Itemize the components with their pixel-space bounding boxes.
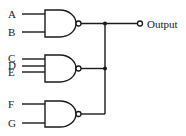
inversion-bubble-icon (76, 112, 81, 117)
input-label-b: B (8, 26, 15, 38)
output-terminal-icon (138, 21, 143, 26)
nand-gate-icon (45, 10, 76, 37)
input-label-a: A (8, 8, 16, 20)
nand-gate-icon (45, 55, 76, 82)
inversion-bubble-icon (76, 66, 81, 71)
inversion-bubble-icon (76, 21, 81, 26)
input-label-f: F (8, 98, 14, 110)
output-bus (81, 22, 138, 115)
output-label: Output (147, 18, 178, 30)
nand-gate-icon (45, 101, 76, 127)
junction-dot-icon (103, 67, 107, 71)
nand-gate-3 (45, 101, 81, 127)
nand-gate-1 (45, 10, 81, 37)
input-wires (22, 14, 45, 123)
input-label-g: G (8, 117, 16, 129)
nand-gate-2 (45, 55, 81, 82)
logic-circuit-diagram: A B C D E F G Output (0, 0, 186, 136)
junction-dot-icon (103, 22, 107, 26)
input-label-e: E (8, 66, 15, 78)
